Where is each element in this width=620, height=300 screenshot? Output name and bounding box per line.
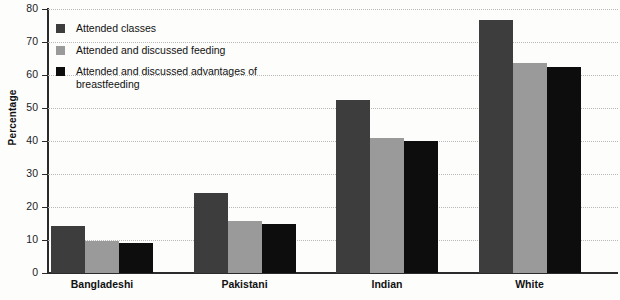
legend-swatch-icon — [56, 67, 65, 76]
y-tick-label-40: 40 — [0, 134, 38, 146]
legend-label: Attended and discussed advantages of bre… — [76, 65, 286, 90]
x-tick-label-white: White — [479, 278, 581, 290]
y-tick-label-70: 70 — [0, 35, 38, 47]
legend-item: Attended and discussed advantages of bre… — [56, 65, 286, 90]
y-tick-mark-60 — [42, 75, 47, 76]
bar — [228, 221, 262, 273]
legend-label: Attended and discussed feeding — [76, 44, 225, 57]
bar — [262, 224, 296, 273]
x-tick-label-pakistani: Pakistani — [194, 278, 296, 290]
y-tick-mark-80 — [42, 9, 47, 10]
bar-chart: Percentage 01020304050607080 Bangladeshi… — [0, 0, 620, 300]
bar — [119, 243, 153, 273]
legend-swatch-icon — [56, 46, 65, 55]
y-tick-label-10: 10 — [0, 233, 38, 245]
y-tick-mark-20 — [42, 207, 47, 208]
y-tick-mark-50 — [42, 108, 47, 109]
y-tick-mark-70 — [42, 42, 47, 43]
legend-swatch-icon — [56, 24, 65, 33]
chart-legend: Attended classesAttended and discussed f… — [56, 22, 286, 99]
legend-item: Attended and discussed feeding — [56, 44, 286, 57]
y-tick-label-20: 20 — [0, 200, 38, 212]
y-tick-label-30: 30 — [0, 167, 38, 179]
bar — [404, 141, 438, 273]
y-tick-label-50: 50 — [0, 101, 38, 113]
bar — [479, 20, 513, 273]
bar — [85, 241, 119, 272]
bar — [547, 67, 581, 272]
bar — [51, 226, 85, 272]
legend-label: Attended classes — [76, 22, 156, 35]
y-tick-label-60: 60 — [0, 68, 38, 80]
bar — [513, 63, 547, 273]
bar — [370, 138, 404, 272]
bar — [194, 193, 228, 272]
y-tick-mark-0 — [42, 273, 47, 274]
bar — [336, 100, 370, 273]
x-tick-label-indian: Indian — [336, 278, 438, 290]
x-tick-label-bangladeshi: Bangladeshi — [51, 278, 153, 290]
y-tick-mark-40 — [42, 141, 47, 142]
y-tick-label-80: 80 — [0, 2, 38, 14]
y-tick-mark-30 — [42, 174, 47, 175]
y-tick-label-0: 0 — [0, 266, 38, 278]
legend-item: Attended classes — [56, 22, 286, 35]
y-tick-mark-10 — [42, 240, 47, 241]
